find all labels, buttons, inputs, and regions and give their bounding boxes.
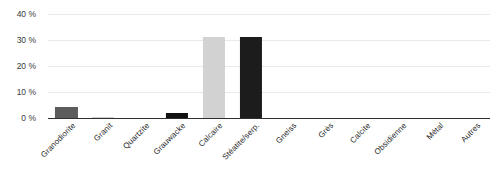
x-axis-tick-label: Grauwacke <box>152 121 188 157</box>
bar-series <box>48 14 490 118</box>
bar-slot <box>306 14 343 118</box>
bar[interactable] <box>240 37 262 118</box>
bar-slot <box>85 14 122 118</box>
y-axis-tick-label: 40 % <box>0 9 44 19</box>
x-axis-tick-label: Stéatite/serp. <box>221 121 262 162</box>
bar-slot <box>416 14 453 118</box>
x-axis-tick-label: Obsidienne <box>373 121 409 157</box>
x-axis-labels: GranodioriteGranitQuartziteGrauwackeCalc… <box>48 119 490 188</box>
bar-slot <box>122 14 159 118</box>
bar-slot <box>380 14 417 118</box>
x-axis-tick-label: Grès <box>316 121 335 140</box>
x-axis-tick-label: Autres <box>459 121 482 144</box>
bar-slot <box>48 14 85 118</box>
x-axis-tick-label: Granodiorite <box>39 121 77 159</box>
y-axis-tick-label: 10 % <box>0 87 44 97</box>
bar[interactable] <box>203 37 225 118</box>
bar-slot <box>453 14 490 118</box>
x-axis-tick-label: Quartzite <box>121 121 151 151</box>
y-axis-tick-label: 20 % <box>0 61 44 71</box>
x-axis-tick-label: Gneiss <box>274 121 298 145</box>
bar[interactable] <box>55 107 77 118</box>
y-axis-tick-label: 0 % <box>0 113 44 123</box>
bar-chart: 40 %30 %20 %10 %0 % GranodioriteGranitQu… <box>0 0 499 188</box>
x-axis-tick-label: Calcaire <box>197 121 225 149</box>
y-axis-tick-label: 30 % <box>0 35 44 45</box>
bar-slot <box>195 14 232 118</box>
x-axis-tick-label: Métal <box>425 121 446 142</box>
x-axis-tick-label: Granit <box>92 121 114 143</box>
bar-slot <box>232 14 269 118</box>
bar-slot <box>159 14 196 118</box>
x-axis-tick-label: Calcite <box>348 121 372 145</box>
bar-slot <box>343 14 380 118</box>
bar-slot <box>269 14 306 118</box>
